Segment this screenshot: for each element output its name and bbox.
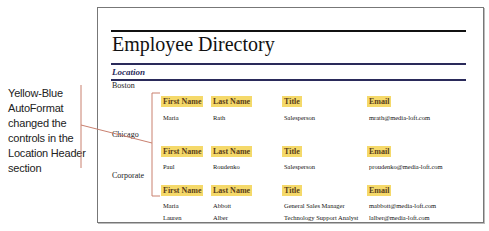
callout-leader-lines <box>0 0 489 231</box>
callout-leader <box>81 125 152 143</box>
